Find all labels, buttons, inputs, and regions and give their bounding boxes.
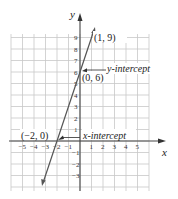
line-arrow-down-icon [41,179,45,186]
y-tick-label: −3 [72,172,80,180]
x-tick-label: 4 [124,143,128,151]
x-tick-label: −3 [42,143,50,151]
point-label-neg2-0: (−2, 0) [21,130,48,142]
point-0-6: (0, 6) y-intercept [81,63,170,84]
coordinate-graph: x y −5−4−3−2−112345 987654321−1−2−3 (1, … [0,0,178,199]
y-tick-label: 4 [74,92,78,100]
y-tick-label: −2 [72,161,80,169]
point-neg2-0: (−2, 0) x-intercept [20,129,136,142]
point-label-1-9: (1, 9) [94,32,116,44]
x-tick-label: 3 [113,143,117,151]
x-intercept-label: x-intercept [82,130,126,141]
y-axis-label: y [69,8,75,20]
y-tick-label: 2 [74,115,78,123]
y-tick-label: 8 [74,46,78,54]
y-axis-arrow-icon [78,13,83,21]
y-tick-label: 7 [74,57,78,65]
x-tick-label: −5 [19,143,27,151]
y-tick-labels: 987654321−1−2−3 [72,34,80,180]
y-tick-label: 3 [74,103,78,111]
x-axis-arrow-icon [158,139,166,144]
x-tick-label: 2 [101,143,105,151]
point-1-9: (1, 9) [93,31,127,44]
point-label-0-6: (0, 6) [82,72,104,84]
y-tick-label: −1 [72,149,80,157]
y-tick-label: 1 [74,126,78,134]
x-tick-label: 1 [90,143,94,151]
x-axis-label: x [161,146,167,158]
y-intercept-label: y-intercept [106,63,150,74]
x-tick-label: −4 [30,143,38,151]
x-tick-label: 5 [136,143,140,151]
y-tick-label: 6 [74,69,78,77]
y-tick-label: 9 [74,34,78,42]
